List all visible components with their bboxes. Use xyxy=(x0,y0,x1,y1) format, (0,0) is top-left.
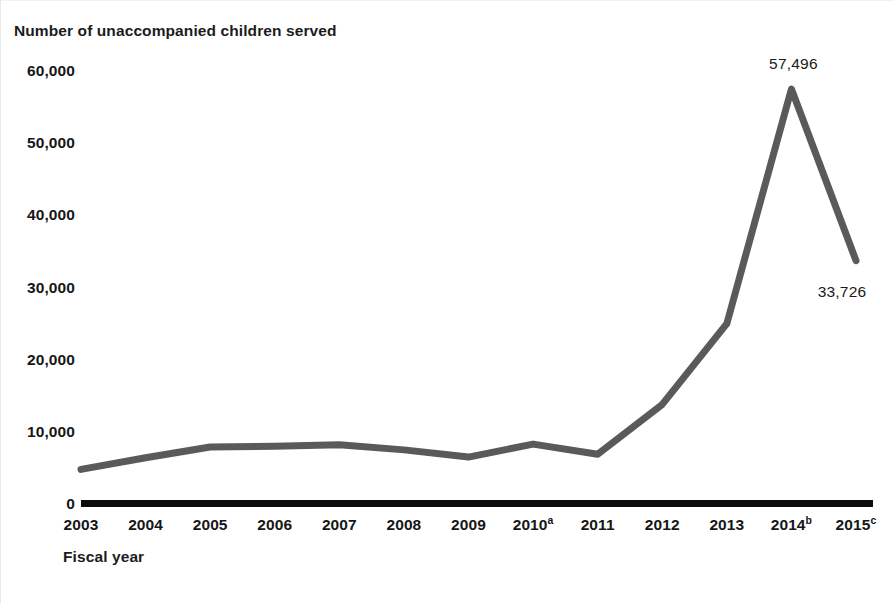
plot-area xyxy=(83,61,873,506)
y-axis-tick-0: 0 xyxy=(1,495,75,513)
data-label-2015: 33,726 xyxy=(818,283,867,301)
y-axis-tick-60000: 60,000 xyxy=(1,62,75,80)
chart-figure: Number of unaccompanied children served … xyxy=(0,0,894,603)
x-axis-tick-footnote-a: a xyxy=(548,514,554,526)
data-label-2014: 57,496 xyxy=(769,55,818,73)
y-axis-tick-20000: 20,000 xyxy=(1,351,75,369)
y-axis-tick-40000: 40,000 xyxy=(1,206,75,224)
y-axis-tick-50000: 50,000 xyxy=(1,134,75,152)
x-axis-tick-2008: 2008 xyxy=(386,516,421,534)
x-axis-tick-2009: 2009 xyxy=(451,516,486,534)
line-series-path xyxy=(81,89,856,469)
x-axis-tick-2015: 2015c xyxy=(836,516,877,534)
x-axis-tick-2012: 2012 xyxy=(645,516,680,534)
x-axis-tick-2014: 2014b xyxy=(771,516,812,534)
x-axis-tick-2010: 2010a xyxy=(513,516,554,534)
x-axis-tick-footnote-b: b xyxy=(806,514,813,526)
x-axis-tick-2007: 2007 xyxy=(322,516,357,534)
y-axis-tick-labels: 010,00020,00030,00040,00050,00060,000 xyxy=(1,1,75,603)
x-axis-tick-2006: 2006 xyxy=(257,516,292,534)
x-axis-tick-2011: 2011 xyxy=(581,516,615,534)
x-axis-tick-2013: 2013 xyxy=(709,516,744,534)
x-axis-tick-2005: 2005 xyxy=(193,516,228,534)
x-axis-tick-2004: 2004 xyxy=(128,516,163,534)
line-series-svg xyxy=(83,61,873,506)
x-axis-tick-2003: 2003 xyxy=(64,516,99,534)
x-axis-line xyxy=(81,500,873,507)
x-axis-tick-footnote-c: c xyxy=(870,514,876,526)
y-axis-tick-10000: 10,000 xyxy=(1,423,75,441)
x-axis-title: Fiscal year xyxy=(63,548,144,566)
y-axis-tick-30000: 30,000 xyxy=(1,279,75,297)
